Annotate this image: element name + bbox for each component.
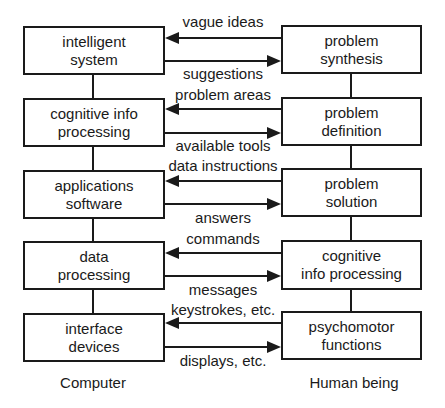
box-label-line2: info processing [301, 265, 402, 283]
arrowhead-right-icon [267, 198, 281, 210]
flow-label-to-human: available tools [175, 138, 270, 154]
human-connector-3 [350, 216, 352, 240]
box-label-line2: solution [326, 193, 378, 211]
box-intelligent-system: intelligent system [23, 26, 165, 75]
arrowhead-left-icon [165, 175, 179, 187]
flow-label-to-computer: problem areas [175, 87, 271, 103]
arrow-line-to-computer-2 [178, 108, 281, 110]
flow-label-to-human: displays, etc. [180, 353, 267, 369]
arrow-line-to-human-2 [165, 132, 268, 134]
arrowhead-left-icon [165, 247, 179, 259]
box-label-line1: intelligent [62, 33, 125, 51]
box-label-line1: problem [324, 104, 378, 122]
human-connector-1 [350, 73, 352, 97]
flow-label-to-human: answers [195, 210, 251, 226]
arrow-line-to-computer-3 [178, 180, 281, 182]
arrowhead-left-icon [165, 32, 179, 44]
flow-label-to-computer: data instructions [168, 158, 277, 174]
arrowhead-right-icon [267, 55, 281, 67]
box-interface-devices: interface devices [23, 313, 165, 362]
flow-label-to-computer: keystrokes, etc. [171, 302, 275, 318]
box-label-line2: functions [321, 336, 381, 354]
computer-connector-1 [92, 74, 94, 98]
flow-label-to-human: messages [189, 282, 257, 298]
box-label-line2: devices [69, 338, 120, 356]
human-connector-2 [350, 145, 352, 168]
arrowhead-right-icon [267, 341, 281, 353]
arrow-line-to-human-3 [165, 203, 268, 205]
arrowhead-left-icon [165, 103, 179, 115]
caption-computer: Computer [60, 374, 126, 392]
box-label-line1: interface [65, 320, 123, 338]
arrow-line-to-human-5 [165, 346, 268, 348]
box-cognitive-info-processing-computer: cognitive info processing [23, 98, 165, 147]
box-label-line1: problem [324, 32, 378, 50]
arrow-line-to-human-4 [165, 275, 268, 277]
computer-connector-2 [92, 146, 94, 170]
box-label-line1: cognitive [322, 247, 381, 265]
box-problem-solution: problem solution [281, 168, 422, 217]
box-label-line1: applications [54, 177, 133, 195]
caption-human-being: Human being [309, 374, 398, 392]
box-label-line2: system [70, 51, 118, 69]
box-label-line2: processing [58, 266, 131, 284]
arrow-line-to-computer-5 [178, 322, 281, 324]
computer-connector-4 [92, 289, 94, 313]
box-psychomotor-functions: psychomotor functions [281, 311, 422, 360]
box-cognitive-info-processing-human: cognitive info processing [281, 240, 422, 290]
box-problem-synthesis: problem synthesis [281, 25, 422, 74]
arrowhead-left-icon [165, 317, 179, 329]
box-data-processing: data processing [23, 241, 165, 290]
arrow-line-to-computer-4 [178, 252, 281, 254]
arrow-line-to-computer-1 [178, 37, 281, 39]
box-label-line1: cognitive info [50, 105, 138, 123]
flow-label-to-computer: vague ideas [183, 14, 264, 30]
arrow-line-to-human-1 [165, 60, 268, 62]
flow-label-to-human: suggestions [183, 66, 263, 82]
box-label-line2: synthesis [320, 50, 383, 68]
flow-label-to-computer: commands [186, 231, 259, 247]
box-label-line2: software [66, 195, 123, 213]
box-label-line2: processing [58, 123, 131, 141]
box-problem-definition: problem definition [281, 97, 422, 146]
human-connector-4 [350, 289, 352, 311]
box-label-line2: definition [321, 122, 381, 140]
box-applications-software: applications software [23, 170, 165, 219]
computer-connector-3 [92, 218, 94, 241]
box-label-line1: psychomotor [309, 318, 395, 336]
arrowhead-right-icon [267, 270, 281, 282]
box-label-line1: data [79, 248, 108, 266]
box-label-line1: problem [324, 175, 378, 193]
